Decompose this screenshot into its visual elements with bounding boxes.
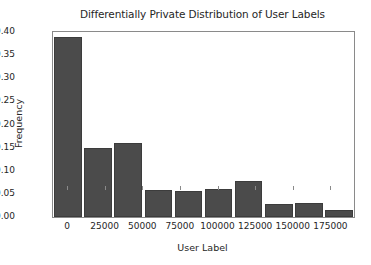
bar: [84, 148, 112, 217]
y-tick-label: 0.20: [0, 119, 15, 129]
chart-figure: Differentially Private Distribution of U…: [0, 0, 371, 265]
bar: [175, 191, 203, 217]
bar: [295, 203, 323, 217]
y-tick-label: 0.25: [0, 95, 15, 105]
bar: [235, 181, 263, 217]
bar: [265, 204, 293, 217]
y-tick-label: 0.05: [0, 188, 15, 198]
y-tick-label: 0.35: [0, 49, 15, 59]
bar: [205, 189, 233, 217]
bar: [114, 143, 142, 217]
x-tick-mark: [180, 186, 181, 190]
x-tick-mark: [105, 186, 106, 190]
bars-layer: [53, 32, 354, 217]
y-tick-label: 0.15: [0, 142, 15, 152]
x-tick-label: 175000: [300, 221, 360, 231]
x-tick-mark: [218, 186, 219, 190]
bar: [325, 210, 353, 217]
chart-title: Differentially Private Distribution of U…: [52, 8, 353, 20]
x-axis-label: User Label: [52, 242, 353, 253]
y-tick-label: 0.10: [0, 165, 15, 175]
bar: [145, 190, 173, 217]
x-tick-mark: [67, 186, 68, 190]
bar: [54, 37, 82, 217]
plot-area: [52, 31, 355, 218]
y-tick-label: 0.30: [0, 72, 15, 82]
x-tick-mark: [293, 186, 294, 190]
x-tick-mark: [330, 186, 331, 190]
y-tick-label: 0.40: [0, 26, 15, 36]
x-tick-mark: [142, 186, 143, 190]
x-tick-mark: [255, 186, 256, 190]
y-tick-label: 0.00: [0, 211, 15, 221]
